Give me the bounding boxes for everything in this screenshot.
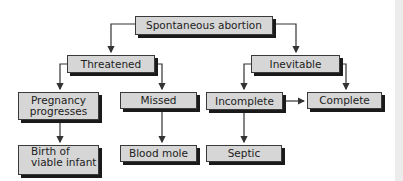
node-label-line2: progresses [30, 106, 87, 117]
node-incomplete: Incomplete [206, 92, 283, 110]
node-label: Incomplete [215, 96, 274, 107]
node-label: Complete [319, 95, 370, 106]
node-complete: Complete [307, 92, 382, 109]
node-septic: Septic [206, 145, 282, 162]
node-missed: Missed [120, 92, 197, 109]
node-blood-mole: Blood mole [120, 145, 197, 162]
node-label: Missed [140, 95, 176, 106]
node-label-line2: viable infant [31, 157, 96, 168]
node-threatened: Threatened [67, 55, 155, 73]
node-inevitable: Inevitable [251, 55, 340, 73]
node-spontaneous-abortion: Spontaneous abortion [135, 16, 273, 35]
node-label: Spontaneous abortion [146, 20, 262, 31]
node-label: Septic [228, 148, 261, 159]
node-label: Inevitable [270, 59, 322, 70]
node-label: Threatened [81, 59, 141, 70]
node-label: Blood mole [129, 148, 188, 159]
node-pregnancy-progresses: Pregnancy progresses [18, 92, 99, 120]
node-birth-of-viable-infant: Birth of viable infant [18, 145, 99, 175]
